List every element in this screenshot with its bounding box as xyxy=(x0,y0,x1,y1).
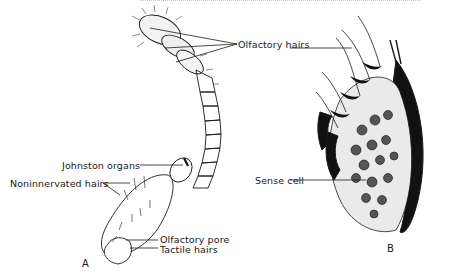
label-tactile-hairs: Tactile hairs xyxy=(160,245,218,255)
panel-a-antenna xyxy=(101,5,221,264)
label-olfactory-hairs: Olfactory hairs xyxy=(238,40,309,50)
panel-label-b: B xyxy=(387,243,394,254)
label-noninnervated-hairs: Noninnervated hairs xyxy=(10,179,109,189)
label-johnston-organs: Johnston organs xyxy=(62,161,140,171)
label-sense-cell: Sense cell xyxy=(255,176,304,186)
panel-label-a: A xyxy=(82,258,89,269)
panel-b-section xyxy=(316,16,423,233)
